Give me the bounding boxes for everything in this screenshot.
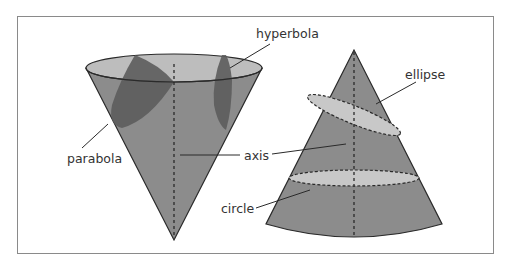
label-hyperbola: hyperbola	[256, 26, 319, 41]
label-ellipse: ellipse	[405, 67, 446, 82]
label-parabola: parabola	[67, 151, 122, 166]
conic-sections-diagram: hyperbola parabola axis ellipse circle	[0, 0, 511, 269]
label-circle: circle	[221, 201, 255, 216]
label-axis: axis	[244, 148, 269, 163]
